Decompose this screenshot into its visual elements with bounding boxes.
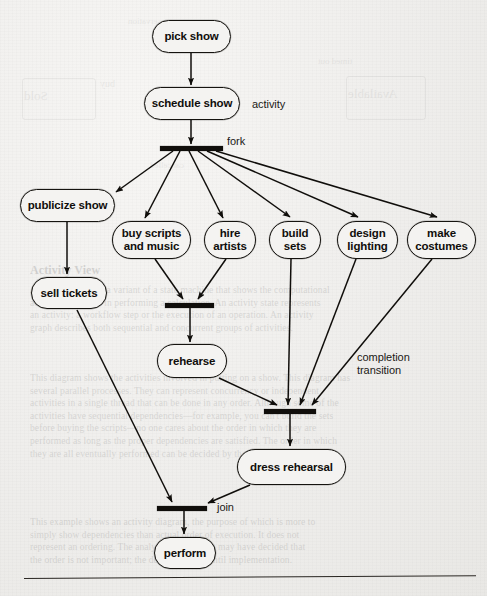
node-sell-tickets-label: sell tickets [36, 287, 101, 300]
node-pick-show-label: pick show [160, 30, 222, 43]
node-publicize-show[interactable]: publicize show [20, 189, 115, 222]
annotation-completion-transition: completion transition [357, 351, 410, 376]
edge-fork-hireartists [189, 151, 223, 218]
node-rehearse[interactable]: rehearse [157, 344, 227, 378]
edge-rehearse-join2 [219, 378, 277, 405]
node-schedule-show[interactable]: schedule show [144, 87, 240, 120]
edge-selltickets-join3 [77, 310, 172, 502]
node-buy-scripts-and-music[interactable]: buy scripts and music [112, 221, 191, 259]
annotation-join: join [217, 501, 234, 514]
fork-bar[interactable] [160, 146, 223, 151]
edge-fork-buyscripts [145, 151, 180, 218]
node-hire-artists-label: hire artists [209, 227, 250, 253]
edge-makecostumes-join2 [312, 259, 432, 405]
node-perform-label: perform [160, 547, 210, 560]
node-design-lighting-label: design lighting [343, 227, 391, 253]
node-design-lighting[interactable]: design lighting [337, 221, 398, 259]
node-hire-artists[interactable]: hire artists [204, 221, 256, 259]
annotation-fork: fork [227, 135, 245, 148]
node-buy-scripts-and-music-label: buy scripts and music [118, 227, 186, 253]
node-schedule-show-label: schedule show [148, 97, 237, 110]
node-dress-rehearsal[interactable]: dress rehearsal [237, 449, 346, 485]
edge-fork-publicizeshow [116, 151, 173, 192]
node-sell-tickets[interactable]: sell tickets [31, 277, 107, 309]
join-bar-2[interactable] [264, 409, 316, 414]
node-dress-rehearsal-label: dress rehearsal [246, 461, 337, 474]
edge-buyscripts-join1 [155, 259, 183, 299]
edge-fork-makecostumes [216, 151, 437, 217]
node-pick-show[interactable]: pick show [152, 20, 231, 53]
edge-fork-designlighting [207, 151, 358, 217]
node-build-sets-label: build sets [278, 227, 313, 253]
node-build-sets[interactable]: build sets [269, 221, 321, 259]
edge-hireartists-join1 [198, 259, 226, 299]
join-bar-1[interactable] [165, 303, 214, 308]
annotation-activity: activity [252, 98, 285, 111]
join-bar-3[interactable] [157, 506, 207, 511]
node-perform[interactable]: perform [154, 537, 216, 569]
node-make-costumes-label: make costumes [411, 227, 472, 253]
edge-designlighting-join2 [300, 259, 356, 405]
edge-fork-buildsets [198, 151, 290, 217]
activity-diagram-page: Available Sold timed out buy cancelled r… [0, 0, 487, 596]
node-make-costumes[interactable]: make costumes [407, 221, 476, 259]
edge-buildsets-join2 [288, 259, 291, 405]
node-rehearse-label: rehearse [165, 355, 220, 368]
node-publicize-show-label: publicize show [24, 199, 112, 212]
